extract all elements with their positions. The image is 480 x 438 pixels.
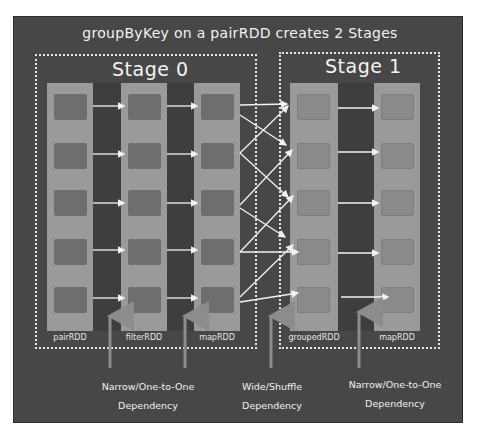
shuffle-arrow: [240, 293, 298, 302]
dependency-line2: Dependency: [88, 396, 208, 415]
shuffle-arrow: [240, 106, 288, 153]
shuffle-arrow: [240, 150, 292, 205]
dependency-line2: Dependency: [222, 396, 322, 415]
dependency-line2: Dependency: [335, 394, 455, 413]
shuffle-arrow: [240, 196, 293, 252]
dependency-label-narrow-stage1: Narrow/One-to-One Dependency: [335, 375, 455, 413]
arrows-layer: [0, 0, 480, 438]
dependency-label-shuffle: Wide/Shuffle Dependency: [222, 377, 322, 415]
shuffle-arrow: [240, 245, 293, 297]
dependency-line1: Wide/Shuffle: [222, 377, 322, 396]
dependency-label-narrow-stage0: Narrow/One-to-One Dependency: [88, 377, 208, 415]
dependency-line1: Narrow/One-to-One: [335, 375, 455, 394]
shuffle-arrow: [240, 153, 288, 197]
dependency-line1: Narrow/One-to-One: [88, 377, 208, 396]
shuffle-arrow: [240, 104, 287, 105]
